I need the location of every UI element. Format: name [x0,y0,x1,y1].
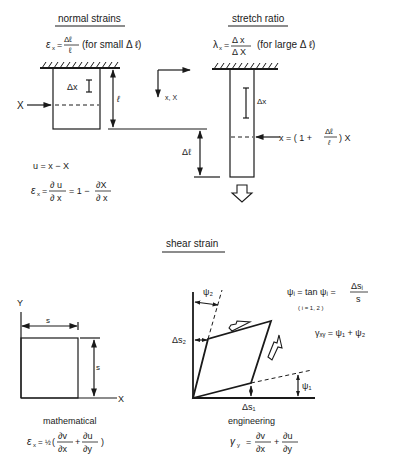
lambda-symbol: λ [213,39,218,50]
stretch-ratio-title: stretch ratio [232,13,285,24]
fraction-numerator: ∂v [256,431,265,441]
stretched-bar [230,69,254,177]
axes-label: x, X [165,94,177,101]
svg-text:=: = [224,40,229,50]
fraction-numerator: ∂X [96,180,106,190]
fraction-denominator: ∂y [83,444,92,454]
half-coefficient: ½ [45,439,51,446]
subscript: x [33,442,36,448]
gamma-definition: γₓᵧ = ψ₁ + ψ₂ [315,328,366,338]
fraction-numerator: ∂ u [50,180,62,190]
formula-note: (for small Δ ℓ) [82,39,141,50]
svg-text:+: + [75,437,80,447]
ds1-label: Δs₁ [242,402,256,412]
epsilon-symbol: ε [31,185,36,196]
fraction-denominator: Δ X [232,47,246,57]
fraction-numerator: Δℓ [64,35,72,44]
svg-text:=: = [246,437,251,447]
x-axis-label: X [118,394,124,404]
svg-text:=: = [38,438,43,447]
mathematical-shear-diagram: Y X s s mathematical ε x = ½ ( ∂v ∂x + ∂… [17,298,124,454]
fraction-denominator: s [356,294,361,304]
engineering-shear-diagram: ψ₂ Δs₂ Δs₁ ψ₁ engineering γ y = ∂v ∂x + … [172,281,368,454]
fraction-denominator: ∂x [256,444,265,454]
svg-text:=: = [57,40,62,50]
subscript: x [37,191,40,197]
psi2-reference-line [208,290,222,339]
delta-l-label: Δℓ [182,147,192,157]
svg-text:(: ( [52,437,55,447]
shear-strain-title: shear strain [166,238,218,249]
formula-note: (for large Δ ℓ) [257,39,315,50]
svg-text:=: = [42,186,47,196]
fraction-denominator: ∂x [58,444,67,454]
stretch-ratio-section: stretch ratio λ x = Δ x Δ X (for large Δ… [31,13,351,203]
strain-diagram: normal strains ε x = Δℓ ℓ (for small Δ ℓ… [0,0,397,455]
psi1-label: ψ₁ [302,381,311,391]
mathematical-caption: mathematical [43,416,97,426]
material-coordinate-label: X [17,100,24,111]
sheared-element [193,321,271,398]
epsilon-symbol: ε [46,39,51,50]
unstretched-bar [53,68,100,129]
fraction-numerator: ∂u [83,431,92,441]
fraction-numerator: ∂v [58,431,67,441]
gamma-symbol: γ [230,436,236,447]
coordinate-axes: x, X [158,70,190,101]
width-label: s [46,316,50,325]
fraction-numerator: Δ x [232,35,245,45]
psi-definition: ψᵢ = tan ψᵢ = [287,287,336,297]
normal-strains-title: normal strains [58,13,121,24]
displacement-equation: u = x − X [33,161,69,171]
psi2-angle-arrow [195,302,218,305]
normal-strains-section: normal strains ε x = Δℓ ℓ (for small Δ ℓ… [17,13,207,129]
svg-text:): ) [101,437,104,447]
index-range: ( i = 1, 2 ) [298,305,324,311]
svg-text:+: + [274,437,279,447]
delta-x-label: Δx [67,82,78,92]
fraction-numerator: Δsᵢ [351,281,363,291]
subscript: x [219,45,222,51]
position-eq-lhs: x = ( 1 + [279,133,312,143]
fraction-numerator: Δℓ [325,127,333,136]
position-eq-rhs: ) X [339,133,351,143]
psi2-label: ψ₂ [203,287,213,297]
hollow-down-arrow-icon [232,185,252,202]
equation-middle: = 1 − [69,186,90,196]
shear-strain-section: shear strain Y X s s mathematical ε x = … [17,238,368,454]
epsilon-symbol: ε [27,436,32,447]
engineering-caption: engineering [228,416,275,426]
fraction-denominator: ∂ x [96,193,108,203]
square-element [21,338,78,398]
subscript: x [52,45,55,51]
fraction-denominator: ∂y [283,444,292,454]
height-label: s [96,363,100,372]
fraction-denominator: ℓ [68,46,72,55]
hollow-up-arrow-icon [268,335,282,360]
y-axis-label: Y [17,298,23,308]
length-label: ℓ [116,94,120,104]
fraction-numerator: ∂u [283,431,292,441]
fraction-denominator: ℓ [327,139,331,146]
delta-x-label: Δx [257,97,266,106]
fraction-denominator: ∂ x [50,193,62,203]
subscript: y [237,442,240,448]
ds2-label: Δs₂ [172,335,187,345]
